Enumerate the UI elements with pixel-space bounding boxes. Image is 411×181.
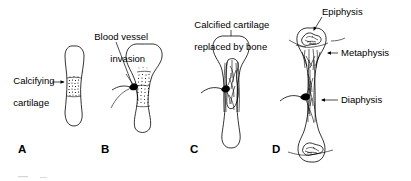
- panel-letter-c: C: [190, 143, 198, 155]
- diaphysis-nutrient-artery: [280, 81, 310, 114]
- calcifying-zone-stipple: [68, 76, 79, 96]
- proximal-epiphysis-ossification: [302, 33, 321, 45]
- label-calcifying-cartilage-line2: cartilage: [13, 97, 49, 108]
- panel-a-cartilage-model: [52, 46, 84, 126]
- panel-d-developing-long-bone: [280, 28, 345, 162]
- label-metaphysis: Metaphysis: [341, 47, 389, 58]
- panel-letter-d: D: [272, 143, 280, 155]
- bottom-edge-artifact: [18, 176, 47, 178]
- label-epiphysis: Epiphysis: [322, 6, 363, 17]
- proximal-metaphysis-trabeculae: [302, 49, 320, 70]
- label-calcified-replaced-line1: Calcified cartilage: [194, 19, 269, 30]
- label-blood-vessel-line2: invasion: [94, 53, 145, 64]
- label-calcifying-cartilage-line1: Calcifying: [13, 75, 54, 86]
- primary-ossification-center: [226, 59, 238, 110]
- label-diaphysis: Diaphysis: [341, 94, 382, 105]
- label-calcified-replaced-line2: replaced by bone: [194, 41, 267, 52]
- label-calcifying-cartilage: Calcifying cartilage: [8, 64, 54, 108]
- label-blood-vessel-line1: Blood vessel: [94, 31, 148, 42]
- invading-blood-vessel: [111, 74, 148, 108]
- panel-letter-a: A: [18, 143, 26, 155]
- label-calcified-cartilage-replaced: Calcified cartilage replaced by bone: [189, 8, 269, 52]
- label-blood-vessel-invasion: Blood vessel invasion: [89, 20, 148, 64]
- panel-letter-b: B: [101, 143, 109, 155]
